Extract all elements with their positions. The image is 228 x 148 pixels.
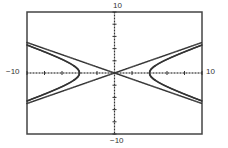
graph-plot-area bbox=[0, 0, 228, 148]
